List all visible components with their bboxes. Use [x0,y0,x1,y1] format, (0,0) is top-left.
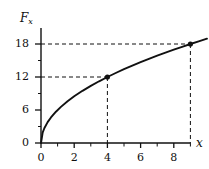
y-tick-label-6: 6 [22,104,29,115]
y-axis-title-subscript: x [28,17,33,26]
x-tick-label-0: 0 [38,152,45,163]
y-axis-title: Fx [20,12,33,24]
x-tick-label-6: 6 [137,152,144,163]
x-tick-label-4: 4 [104,152,111,163]
x-tick-label-8: 8 [170,152,177,163]
force-curve [41,39,207,143]
x-tick-label-2: 2 [71,152,78,163]
x-axis-ticks [41,143,174,148]
y-tick-label-18: 18 [15,38,29,49]
y-tick-label-0: 0 [22,137,29,148]
data-point-9-18 [188,41,193,46]
y-tick-label-12: 12 [15,71,29,82]
force-vs-position-plot: Fx x 18 12 6 0 0 2 4 6 8 [0,0,209,169]
data-point-4-12 [105,74,110,79]
x-axis-title: x [196,137,203,149]
